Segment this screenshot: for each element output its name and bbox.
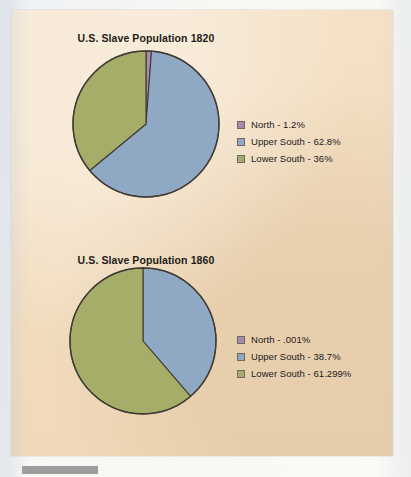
legend-swatch-north-icon — [237, 121, 245, 129]
legend-swatch-lower-south-icon — [237, 370, 245, 378]
legend-label-upper-south: Upper South - 38.7% — [251, 351, 341, 362]
legend-item-north[interactable]: North - 1.2% — [237, 116, 377, 133]
legend-swatch-upper-south-icon — [237, 138, 245, 146]
legend-label-north: North - .001% — [251, 334, 310, 345]
legend-item-north[interactable]: North - .001% — [237, 331, 377, 348]
legend-swatch-north-icon — [237, 336, 245, 344]
legend-swatch-upper-south-icon — [237, 353, 245, 361]
legend-1860: North - .001% Upper South - 38.7% Lower … — [237, 331, 377, 382]
legend-label-north: North - 1.2% — [251, 119, 305, 130]
legend-item-upper-south[interactable]: Upper South - 38.7% — [237, 348, 377, 365]
figure-slave-population-1860: U.S. Slave Population 1860 North - .001%… — [11, 238, 393, 456]
pie-svg-1860 — [68, 266, 218, 416]
legend-label-lower-south: Lower South - 61.299% — [251, 368, 351, 379]
caption-bar — [22, 466, 98, 474]
legend-item-lower-south[interactable]: Lower South - 36% — [237, 150, 377, 167]
chart-title-1820: U.S. Slave Population 1820 — [11, 32, 281, 44]
legend-item-upper-south[interactable]: Upper South - 62.8% — [237, 133, 377, 150]
pie-chart-1860 — [68, 266, 218, 416]
chart-title-1860: U.S. Slave Population 1860 — [11, 254, 281, 266]
legend-label-upper-south: Upper South - 62.8% — [251, 136, 341, 147]
figure-slave-population-1820: U.S. Slave Population 1820 North - 1.2% … — [11, 16, 393, 238]
legend-swatch-lower-south-icon — [237, 155, 245, 163]
pie-svg-1820 — [71, 49, 221, 199]
pie-chart-1820 — [71, 49, 221, 199]
legend-1820: North - 1.2% Upper South - 62.8% Lower S… — [237, 116, 377, 167]
page-sheet: U.S. Slave Population 1820 North - 1.2% … — [11, 10, 393, 456]
legend-item-lower-south[interactable]: Lower South - 61.299% — [237, 365, 377, 382]
legend-label-lower-south: Lower South - 36% — [251, 153, 333, 164]
